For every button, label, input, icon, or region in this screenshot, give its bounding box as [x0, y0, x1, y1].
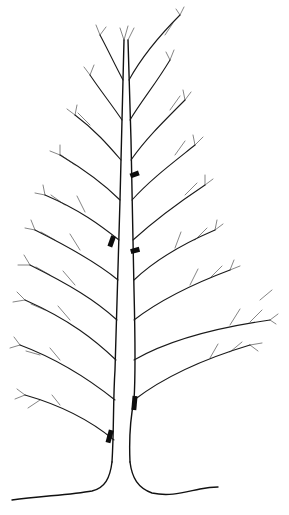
tree-illustration: Line drawing of a deciduous tree with br…: [0, 0, 289, 515]
tree-drawing: [0, 0, 289, 515]
marker-3: [130, 247, 140, 254]
ground-line-left: [12, 462, 112, 500]
right-limbs: [129, 15, 270, 400]
left-limbs: [20, 35, 123, 440]
marker-2: [107, 235, 115, 247]
ground-line-right: [130, 462, 218, 494]
twig-texture: [10, 7, 278, 408]
marker-4: [131, 396, 137, 410]
